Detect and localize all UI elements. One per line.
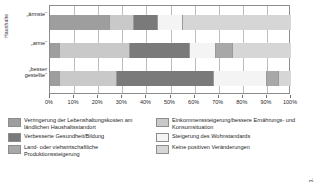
x-axis-tick-mark [218,95,219,98]
legend-item[interactable]: Keine positiven Veränderungen [156,144,296,154]
x-axis-tick-label: 40% [140,99,151,105]
legend-item[interactable]: Land- oder viehwirtschaftliche Produktio… [8,144,154,158]
x-axis-tick-mark [97,95,98,98]
x-axis-tick-mark [121,95,122,98]
x-axis-tick-mark [194,95,195,98]
bar-segment[interactable] [50,15,110,30]
x-axis-tick-mark [242,95,243,98]
source-note: Quelle: Steinwandter, Winterhalder 2017:… [308,178,314,182]
x-axis-tick-label: 100% [283,99,297,105]
plot-area [49,5,290,94]
x-axis-tick-label: 90% [260,99,271,105]
chart-figure: Haushalte „ärmste“„arme“„bessergestellte… [0,0,315,182]
x-axis-tick-label: 60% [188,99,199,105]
bar-segment[interactable] [117,71,213,86]
x-axis-tick-mark [266,95,267,98]
bar-segment[interactable] [60,71,118,86]
bar-segment[interactable] [279,71,291,86]
x-axis-tick-mark [73,95,74,98]
bar-segment[interactable] [183,15,291,30]
legend-swatch-icon [156,133,169,142]
legend-swatch-icon [156,118,169,127]
legend-label: Verringerung der Lebenshaltungskosten am… [24,117,154,131]
bar-segment[interactable] [233,43,291,58]
x-axis-tick-label: 30% [116,99,127,105]
bar-segment[interactable] [190,43,217,58]
x-axis-tick-label: 80% [236,99,247,105]
x-axis-tick-mark [290,95,291,98]
y-axis-tick-label: „bessergestellte“ [3,66,47,78]
legend-label: Keine positiven Veränderungen [172,144,250,151]
legend-item[interactable]: Verbesserte Gesundheit/Bildung [8,133,154,143]
x-axis-tick-mark [49,95,50,98]
y-axis-title: Haushalte [3,28,9,38]
bar-segment[interactable] [50,43,60,58]
legend-label: Steigerung des Wohnstandards [172,133,250,140]
legend-item[interactable]: Verringerung der Lebenshaltungskosten am… [8,117,154,131]
bar-segment[interactable] [50,71,60,86]
x-axis-tick-label: 20% [92,99,103,105]
legend-label: Verbesserte Gesundheit/Bildung [24,133,104,140]
stacked-bar[interactable] [50,71,291,86]
legend-swatch-icon [8,145,21,154]
y-axis-tick-label: „arme“ [3,40,47,46]
y-axis-tick-label: „ärmste“ [3,11,47,17]
bar-row [50,43,289,58]
bar-row [50,71,289,86]
legend-column-left: Verringerung der Lebenshaltungskosten am… [8,117,154,160]
y-axis-tick-line: „ärmste“ [3,11,47,17]
bar-segment[interactable] [267,71,279,86]
bar-segment[interactable] [214,71,267,86]
stacked-bar[interactable] [50,15,291,30]
bar-row [50,15,289,30]
bar-segment[interactable] [130,43,190,58]
chart-legend: Verringerung der Lebenshaltungskosten am… [8,117,290,179]
legend-label: Land- oder viehwirtschaftliche Produktio… [24,144,154,158]
y-axis-tick-line: „arme“ [3,40,47,46]
bar-segment[interactable] [216,43,233,58]
x-axis-tick-label: 10% [68,99,79,105]
y-axis-tick-line: gestellte“ [3,72,47,78]
legend-column-right: Einkommenssteigerung/bessere Ernährungs-… [156,117,296,156]
x-axis-tick-mark [170,95,171,98]
x-axis: 0%10%20%30%40%50%60%70%80%90%100% [49,95,290,111]
legend-item[interactable]: Steigerung des Wohnstandards [156,133,296,143]
legend-swatch-icon [8,118,21,127]
legend-swatch-icon [8,133,21,142]
bar-segment[interactable] [158,15,182,30]
bar-segment[interactable] [60,43,130,58]
legend-swatch-icon [156,145,169,154]
legend-label: Einkommenssteigerung/bessere Ernährungs-… [172,117,296,131]
legend-item[interactable]: Einkommenssteigerung/bessere Ernährungs-… [156,117,296,131]
x-axis-tick-mark [145,95,146,98]
bar-segment[interactable] [134,15,158,30]
x-axis-tick-label: 70% [212,99,223,105]
x-axis-tick-label: 50% [164,99,175,105]
x-axis-tick-label: 0% [45,99,53,105]
bar-segment[interactable] [110,15,134,30]
stacked-bar[interactable] [50,43,291,58]
